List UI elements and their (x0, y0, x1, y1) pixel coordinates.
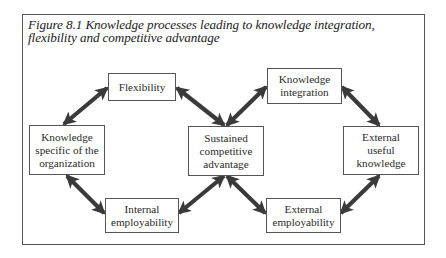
arrow-advantage-integration (227, 87, 266, 125)
node-label: External (272, 203, 334, 216)
arrow-integration-external-useful (342, 87, 379, 125)
node-external-employability: External employability (266, 198, 341, 233)
node-knowledge-specific: Knowledge specific of the organization (29, 125, 105, 175)
arrow-advantage-external-employability (227, 176, 265, 213)
arrow-specific-internal-employability (67, 176, 104, 213)
node-label: integration (279, 86, 331, 99)
node-label: advantage (200, 158, 253, 171)
node-internal-employability: Internal employability (105, 198, 179, 233)
node-knowledge-integration: Knowledge integration (267, 68, 342, 104)
node-label: Flexibility (119, 81, 166, 94)
node-label: organization (35, 157, 98, 170)
node-label: Knowledge (35, 131, 98, 144)
node-label: useful (356, 144, 405, 157)
arrow-flexibility-advantage (177, 88, 224, 125)
node-label: External (356, 131, 405, 144)
arrow-internal-employability-advantage (179, 176, 224, 213)
node-label: knowledge (356, 157, 405, 170)
node-label: Internal (111, 203, 173, 216)
node-label: specific of the (35, 144, 98, 157)
arrow-external-employability-external-useful (341, 176, 379, 213)
node-label: employability (272, 216, 334, 229)
node-label: employability (111, 216, 173, 229)
node-label: competitive (200, 145, 253, 158)
node-flexibility: Flexibility (108, 73, 176, 101)
node-label: Sustained (200, 132, 253, 145)
node-external-useful-knowledge: External useful knowledge (343, 126, 419, 175)
node-sustained-advantage: Sustained competitive advantage (188, 126, 264, 176)
arrow-specific-flexibility (64, 88, 107, 124)
node-label: Knowledge (279, 73, 331, 86)
